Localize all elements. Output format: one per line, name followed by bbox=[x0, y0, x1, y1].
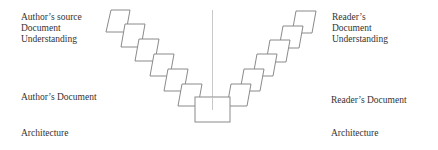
author-architecture-label: Architecture bbox=[21, 128, 68, 139]
reader-staircase bbox=[227, 11, 316, 106]
reader-document-label: Reader’s Document bbox=[331, 95, 407, 106]
author-document-label: Author’s Document bbox=[21, 92, 97, 103]
reader-step-1 bbox=[227, 84, 251, 106]
reader-source-label: Reader’s Document Understanding bbox=[332, 12, 388, 45]
author-staircase bbox=[106, 10, 202, 106]
v-model-diagram: Author’s source Document Understanding A… bbox=[0, 0, 438, 150]
reader-architecture-label: Architecture bbox=[331, 128, 378, 139]
author-source-label: Author’s source Document Understanding bbox=[21, 12, 82, 45]
